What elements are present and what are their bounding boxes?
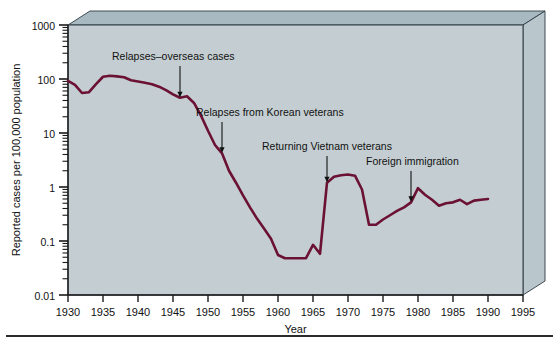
x-axis-tick-label: 1965 [301,306,325,318]
malaria-incidence-line-chart: 10001001010.10.0119301935194019451950195… [0,0,559,342]
annotation-label: Foreign immigration [366,155,459,167]
x-axis-tick-label: 1940 [126,306,150,318]
x-axis-tick-label: 1955 [231,306,255,318]
x-axis-tick-label: 1960 [266,306,290,318]
x-axis-tick-label: 1970 [336,306,360,318]
annotation-label: Relapses from Korean veterans [196,106,344,118]
y-axis-tick-label: 10 [43,128,55,140]
y-axis-tick-label: 1 [49,182,55,194]
x-axis-tick-label: 1950 [196,306,220,318]
y-axis-tick-label: 0.01 [35,290,56,302]
y-axis-tick-label: 1000 [32,20,56,32]
plot-top-face [68,11,545,25]
y-axis-title: Reported cases per 100,000 population [10,64,22,257]
figure-container: 10001001010.10.0119301935194019451950195… [0,0,559,342]
x-axis-tick-label: 1980 [406,306,430,318]
figure-bottom-rule [6,335,553,337]
x-axis-tick-label: 1995 [511,306,535,318]
x-axis-title: Year [284,323,307,335]
x-axis-tick-label: 1945 [161,306,185,318]
x-axis-tick-label: 1975 [371,306,395,318]
x-axis-tick-label: 1990 [476,306,500,318]
x-axis-tick-label: 1985 [441,306,465,318]
annotation-label: Returning Vietnam veterans [262,140,392,152]
y-axis-tick-label: 100 [37,74,55,86]
plot-right-face [523,11,545,295]
y-axis-tick-label: 0.1 [40,236,55,248]
x-axis-tick-label: 1935 [91,306,115,318]
x-axis-tick-label: 1930 [56,306,80,318]
annotation-label: Relapses–overseas cases [112,50,235,62]
